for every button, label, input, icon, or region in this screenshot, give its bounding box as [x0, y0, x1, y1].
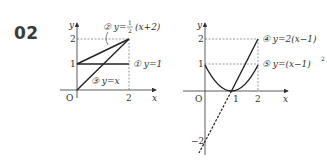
- curve-2: [77, 39, 129, 64]
- origin-label: O: [66, 93, 73, 103]
- y-axis-label: y: [68, 20, 75, 30]
- svg-text:2: 2: [128, 27, 132, 34]
- svg-text:2: 2: [255, 94, 261, 104]
- label-curve-1: ① y=1: [133, 59, 162, 69]
- curve-4-solid: [232, 39, 259, 91]
- svg-text:(x+2): (x+2): [135, 22, 161, 32]
- x-axis-label: x: [283, 94, 288, 104]
- svg-text:1: 1: [198, 59, 204, 69]
- x-axis-label: x: [152, 93, 157, 103]
- svg-text:2: 2: [126, 93, 132, 103]
- svg-text:1: 1: [70, 59, 76, 69]
- svg-text:2: 2: [321, 55, 325, 62]
- graphs: y x O 2 1 2 ① y=1 ② y= 1 2 (x+2) ③ y=x y…: [0, 0, 327, 164]
- curve-5: [205, 65, 258, 91]
- label-curve-2-prefix: ② y=: [103, 22, 127, 32]
- right-graph: y x O 1 2 1 2 −2 ④ y=2(x−1) ⑤ y=(x−1) 2: [183, 20, 325, 155]
- svg-text:1: 1: [128, 19, 132, 26]
- label-curve-3: ③ y=x: [91, 76, 120, 86]
- svg-text:2: 2: [198, 34, 204, 44]
- svg-text:1: 1: [233, 94, 239, 104]
- svg-text:2: 2: [70, 34, 76, 44]
- svg-text:−2: −2: [191, 136, 204, 146]
- label-curve-4: ④ y=2(x−1): [262, 34, 317, 44]
- left-graph: y x O 2 1 2 ① y=1 ② y= 1 2 (x+2) ③ y=x: [60, 19, 162, 103]
- y-axis-label: y: [196, 20, 203, 30]
- label-curve-5: ⑤ y=(x−1): [262, 59, 311, 69]
- origin-label: O: [195, 94, 202, 104]
